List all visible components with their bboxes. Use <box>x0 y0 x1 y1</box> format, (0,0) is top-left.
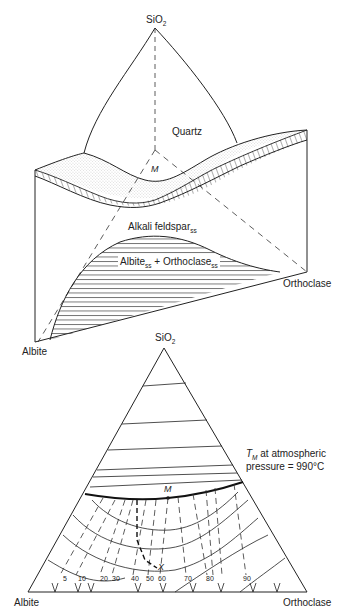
tick-label: 70 <box>184 575 192 582</box>
tick-label: 50 <box>146 575 154 582</box>
bottom-orthoclase-label: Orthoclase <box>283 597 331 608</box>
top-two-feldspar-label: Albitess + Orthoclasess <box>118 256 220 269</box>
tick-label: 80 <box>206 575 214 582</box>
top-orthoclase-label: Orthoclase <box>283 278 331 289</box>
bottom-albite-label: Albite <box>14 597 39 608</box>
top-albite-label: Albite <box>22 346 47 357</box>
tick-label: 40 <box>131 575 139 582</box>
point-x-label: X <box>158 562 164 572</box>
top-alkali-label: Alkali feldsparss <box>128 221 197 234</box>
tick-label: 60 <box>158 575 166 582</box>
top-m-label: M <box>151 164 159 174</box>
tick-label: 10 <box>78 575 86 582</box>
top-quartz-label: Quartz <box>172 126 202 137</box>
top-3d-diagram <box>35 28 307 342</box>
tick-label: 90 <box>243 575 251 582</box>
tm-annotation: TM at atmosphericpressure = 990°C <box>246 448 326 472</box>
top-apex-label: SiO2 <box>146 14 166 27</box>
tick-label: 30 <box>112 575 120 582</box>
tick-label: 5 <box>63 575 67 582</box>
phase-diagram-drawing <box>0 0 339 611</box>
tick-label: 20 <box>100 575 108 582</box>
bottom-apex-label: SiO2 <box>155 332 175 345</box>
bottom-m-label: M <box>164 484 172 494</box>
